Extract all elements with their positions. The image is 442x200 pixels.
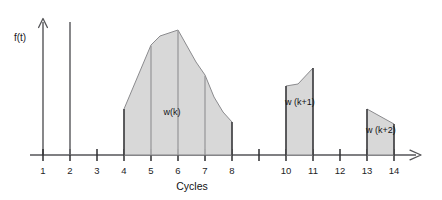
tick-label-1: 1 (40, 165, 45, 176)
figure-canvas: w(k) w (k+1) w (k+2) 1 2 3 4 5 6 7 8 (0, 0, 442, 200)
signal-window-diagram: w(k) w (k+1) w (k+2) 1 2 3 4 5 6 7 8 (0, 0, 442, 200)
x-axis-tick-labels: 1 2 3 4 5 6 7 8 10 11 12 13 14 (40, 165, 399, 176)
tick-label-5: 5 (148, 165, 153, 176)
tick-label-7: 7 (202, 165, 207, 176)
window-wk-group: w(k) (124, 30, 232, 155)
window-wk2-label: w (k+2) (365, 125, 396, 135)
tick-label-2: 2 (67, 165, 72, 176)
window-wk1-shape (286, 68, 313, 155)
window-wk1-label: w (k+1) (284, 97, 315, 107)
y-axis-group (39, 19, 48, 156)
tick-label-6: 6 (175, 165, 180, 176)
tick-label-3: 3 (94, 165, 99, 176)
tick-label-14: 14 (389, 165, 400, 176)
x-axis-title: Cycles (176, 180, 208, 192)
tick-label-8: 8 (229, 165, 234, 176)
window-wk1-group: w (k+1) (284, 68, 315, 155)
tick-label-12: 12 (335, 165, 346, 176)
tick-label-10: 10 (281, 165, 292, 176)
tick-label-4: 4 (121, 165, 126, 176)
tick-label-13: 13 (362, 165, 373, 176)
tick-label-11: 11 (308, 165, 318, 176)
window-wk-label: w(k) (163, 107, 181, 117)
window-wk2-group: w (k+2) (365, 109, 396, 155)
y-axis-label: f(t) (14, 32, 26, 43)
